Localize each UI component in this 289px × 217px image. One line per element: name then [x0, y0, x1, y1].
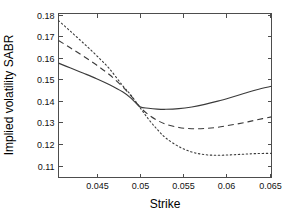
x-tick-label: 0.045	[86, 181, 109, 191]
y-tick-label: 0.11	[38, 162, 55, 172]
x-tick-label: 0.065	[259, 181, 282, 191]
y-tick-label: 0.18	[37, 11, 55, 21]
x-axis-title: Strike	[150, 197, 181, 211]
y-axis-title: Implied volatility SABR	[2, 34, 16, 155]
y-tick-label: 0.16	[37, 54, 55, 64]
implied-volatility-sabr-chart: 0.0450.050.0550.060.0650.110.120.130.140…	[0, 0, 289, 217]
chart-figure: 0.0450.050.0550.060.0650.110.120.130.140…	[0, 0, 289, 217]
y-tick-label: 0.14	[37, 97, 55, 107]
y-tick-label: 0.15	[37, 75, 55, 85]
x-tick-label: 0.055	[172, 181, 195, 191]
y-tick-label: 0.13	[37, 118, 55, 128]
y-tick-label: 0.12	[37, 140, 55, 150]
x-tick-label: 0.06	[218, 181, 236, 191]
x-tick-label: 0.05	[132, 181, 150, 191]
y-tick-label: 0.17	[37, 32, 55, 42]
